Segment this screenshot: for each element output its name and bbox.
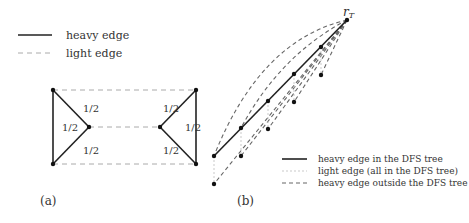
heavy-tree-spine [214,20,347,156]
node [87,125,91,129]
weight-label: 1/2 [163,103,179,114]
legend-a: heavy edge light edge [18,29,129,60]
leaf-node [319,73,323,77]
node [194,88,198,92]
heavy-outside-edge [294,20,347,102]
legend-b-heavy-label: heavy edge in the DFS tree [318,154,443,164]
root-label: rT [343,5,355,20]
node [319,45,323,49]
heavy-outside-edge [268,20,347,129]
diagram-b: rT heavy edge in the DFS tree light edge… [212,5,468,208]
legend-heavy-label: heavy edge [66,29,129,42]
caption-a: (a) [40,194,57,208]
weight-label: 1/2 [83,103,99,114]
leaf-node [239,154,243,158]
diagram-a: 1/2 1/2 1/2 1/2 1/2 1/2 (a) [40,88,201,208]
node [158,125,162,129]
node [266,99,270,103]
weight-label: 1/2 [83,145,99,156]
node [51,162,55,166]
legend-light-label: light edge [66,47,122,60]
caption-b: (b) [237,194,254,208]
leaf-node [292,100,296,104]
weight-label: 1/2 [163,145,179,156]
node [292,72,296,76]
node [239,126,243,130]
weight-label: 1/2 [185,122,201,133]
figure-canvas: heavy edge light edge 1/2 1/2 1/2 1/2 1/… [0,0,469,223]
node [51,88,55,92]
node [212,154,216,158]
legend-b-light-label: light edge (all in the DFS tree) [318,166,458,176]
weight-label: 1/2 [62,122,78,133]
node [194,162,198,166]
leaf-node [212,182,216,186]
legend-b-heavydash-label: heavy edge outside the DFS tree [318,178,468,188]
leaf-node [266,127,270,131]
